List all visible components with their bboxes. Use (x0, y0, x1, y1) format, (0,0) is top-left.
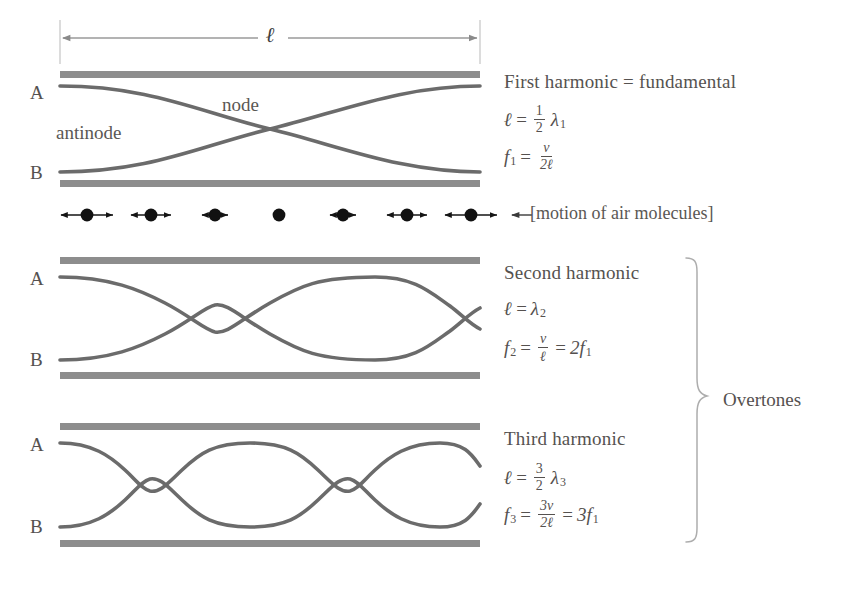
wave-curve-a (60, 443, 480, 491)
eq-rel: = (516, 337, 535, 359)
eq-denominator: 2ℓ (538, 515, 555, 530)
air-molecule (209, 209, 222, 222)
tube-wall-top (60, 71, 480, 78)
eq-fraction: 3 2 (534, 462, 545, 493)
air-molecule (465, 209, 478, 222)
harmonic-3-frequency-equation: f 3 = 3v 2ℓ = 3f 1 (504, 499, 599, 530)
eq-fraction: v 2ℓ (538, 141, 555, 172)
overtones-brace (686, 258, 707, 542)
eq-lhs-subscript: 1 (509, 154, 516, 169)
eq-rel: = (512, 109, 531, 131)
tube-wall-bottom (60, 372, 480, 379)
motion-of-air-molecules-label: [motion of air molecules] (530, 203, 713, 224)
tube-label-b-harmonic-1: B (30, 162, 43, 184)
eq-rel: = (512, 467, 531, 489)
harmonic-3-title: Third harmonic (504, 428, 626, 450)
tube-wall-bottom (60, 180, 480, 187)
harmonic-2-wavelength-equation: ℓ = λ 2 (504, 297, 546, 320)
tube-wall-top (60, 423, 480, 430)
tube-wall-bottom (60, 540, 480, 547)
eq-lambda: λ (531, 298, 539, 320)
eq-lhs: ℓ (504, 466, 512, 489)
air-molecules-row (61, 209, 532, 222)
eq-fraction: v ℓ (538, 332, 548, 363)
eq-rhs: 3f (577, 504, 592, 526)
harmonic-1-wavelength-equation: ℓ = 1 2 λ 1 (504, 104, 566, 135)
air-molecule (145, 209, 158, 222)
node-label: node (222, 94, 259, 116)
eq-lambda: λ (548, 109, 559, 131)
eq-rel-2: = (551, 337, 570, 359)
eq-denominator: 2ℓ (538, 157, 555, 172)
wave-curve-a (60, 277, 480, 332)
eq-numerator: v (541, 141, 551, 157)
air-molecule (401, 209, 414, 222)
eq-lhs: ℓ (504, 297, 512, 320)
eq-denominator: 2 (534, 478, 545, 493)
length-symbol-label: ℓ (266, 22, 275, 48)
tube-label-a-harmonic-1: A (30, 82, 44, 104)
eq-lhs-subscript: 3 (509, 512, 516, 527)
eq-rel: = (516, 504, 535, 526)
eq-lambda-subscript: 1 (559, 117, 566, 132)
eq-denominator: ℓ (538, 348, 548, 363)
eq-lhs-subscript: 2 (509, 345, 516, 360)
eq-fraction: 3v 2ℓ (538, 499, 555, 530)
eq-rhs: 2f (570, 337, 585, 359)
tube-label-b-harmonic-2: B (30, 349, 43, 371)
wave-curve-b (60, 86, 480, 172)
standing-wave-figure: ℓ A B antinode node First harmonic = fun… (0, 0, 860, 591)
wave-curve-b (60, 305, 480, 360)
air-molecule (337, 209, 350, 222)
wave-curve-b (60, 479, 480, 527)
harmonic-1-frequency-equation: f 1 = v 2ℓ (504, 141, 558, 172)
harmonic-2-frequency-equation: f 2 = v ℓ = 2f 1 (504, 332, 592, 363)
harmonic-1-title: First harmonic = fundamental (504, 71, 736, 93)
eq-rel: = (512, 298, 531, 320)
eq-lhs: ℓ (504, 108, 512, 131)
tube-label-a-harmonic-2: A (30, 268, 44, 290)
harmonic-1-graphic (60, 71, 480, 187)
tube-label-a-harmonic-3: A (30, 434, 44, 456)
eq-fraction: 1 2 (534, 104, 545, 135)
air-molecule (81, 209, 94, 222)
eq-numerator: v (538, 332, 548, 348)
harmonic-2-graphic (60, 257, 480, 379)
overtones-label: Overtones (723, 389, 801, 411)
air-molecule (273, 209, 286, 222)
eq-lambda-subscript: 2 (539, 306, 546, 321)
eq-numerator: 1 (534, 104, 545, 120)
tube-label-b-harmonic-3: B (30, 516, 43, 538)
antinode-label: antinode (56, 122, 121, 144)
eq-lambda: λ (548, 467, 559, 489)
harmonic-3-graphic (60, 423, 480, 547)
eq-numerator: 3 (534, 462, 545, 478)
eq-denominator: 2 (534, 120, 545, 135)
eq-rel-2: = (558, 504, 577, 526)
eq-rhs-subscript: 1 (585, 345, 592, 360)
eq-numerator: 3v (538, 499, 555, 515)
eq-rhs-subscript: 1 (592, 512, 599, 527)
eq-rel: = (516, 146, 535, 168)
eq-lambda-subscript: 3 (559, 475, 566, 490)
harmonic-3-wavelength-equation: ℓ = 3 2 λ 3 (504, 462, 566, 493)
harmonic-2-title: Second harmonic (504, 262, 639, 284)
tube-wall-top (60, 257, 480, 264)
